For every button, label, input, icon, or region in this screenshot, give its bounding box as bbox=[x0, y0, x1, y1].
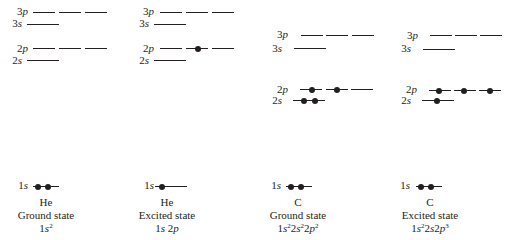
label-3s: 3s bbox=[258, 43, 282, 54]
state-label: Ground state bbox=[0, 209, 101, 222]
electron-dot bbox=[35, 184, 41, 190]
element-symbol: C bbox=[375, 196, 485, 209]
element-symbol: C bbox=[243, 196, 353, 209]
electron-dot bbox=[487, 88, 493, 94]
label-2p: 2p bbox=[130, 43, 154, 54]
orbital-3p-3 bbox=[480, 35, 502, 36]
electron-dot bbox=[298, 184, 304, 190]
orbital-3s bbox=[423, 49, 455, 50]
orbital-2s bbox=[293, 100, 325, 101]
orbital-2s bbox=[154, 60, 186, 61]
panel-he-ground: 3p 3s 2p 2s 1s He Ground state 1s2 bbox=[0, 0, 130, 240]
label-1s: 1s bbox=[386, 180, 410, 191]
element-symbol: He bbox=[0, 196, 101, 209]
orbital-3p-2 bbox=[455, 35, 477, 36]
orbital-3s bbox=[27, 24, 59, 25]
orbital-2p-3 bbox=[85, 48, 107, 49]
orbital-3p-3 bbox=[212, 12, 234, 13]
label-3p: 3p bbox=[4, 6, 28, 17]
electron-configuration: 1s22s2p3 bbox=[375, 222, 485, 235]
caption-c-excited: C Excited state 1s22s2p3 bbox=[375, 196, 485, 235]
electron-dot bbox=[434, 98, 440, 104]
electron-dot bbox=[334, 87, 340, 93]
electron-dot bbox=[45, 184, 51, 190]
orbital-2p-3 bbox=[351, 89, 373, 90]
electron-dot bbox=[159, 184, 165, 190]
element-symbol: He bbox=[112, 196, 222, 209]
orbital-2p-1 bbox=[160, 48, 182, 49]
label-1s: 1s bbox=[130, 180, 154, 191]
orbital-3p-1 bbox=[301, 35, 323, 36]
electron-dot bbox=[288, 184, 294, 190]
electron-configuration: 1s 2p bbox=[112, 222, 222, 235]
label-1s: 1s bbox=[4, 180, 28, 191]
orbital-3p-1 bbox=[430, 35, 452, 36]
state-label: Ground state bbox=[243, 209, 353, 222]
orbital-3p-3 bbox=[85, 12, 107, 13]
electron-dot bbox=[312, 98, 318, 104]
orbital-3p-1 bbox=[160, 12, 182, 13]
label-3s: 3s bbox=[125, 18, 149, 29]
electron-dot bbox=[301, 98, 307, 104]
label-3s: 3s bbox=[0, 18, 22, 29]
orbital-2p-2 bbox=[59, 48, 81, 49]
label-2p: 2p bbox=[4, 43, 28, 54]
panel-c-ground: 3p 3s 2p 2s 1s C Ground state 1s22s22p2 bbox=[260, 0, 390, 240]
electron-dot bbox=[461, 88, 467, 94]
orbital-3p-3 bbox=[352, 35, 374, 36]
orbital-3p-1 bbox=[33, 12, 55, 13]
electron-dot bbox=[418, 184, 424, 190]
caption-c-ground: C Ground state 1s22s22p2 bbox=[243, 196, 353, 235]
orbital-3p-2 bbox=[59, 12, 81, 13]
panel-c-excited: 3p 3s 2p 2s 1s C Excited state 1s22s2p3 bbox=[390, 0, 515, 240]
orbital-3p-2 bbox=[186, 12, 208, 13]
electron-dot bbox=[428, 184, 434, 190]
label-3p: 3p bbox=[394, 30, 418, 41]
orbital-2s bbox=[27, 60, 59, 61]
orbital-3s bbox=[294, 48, 326, 49]
label-2s: 2s bbox=[387, 95, 411, 106]
label-2s: 2s bbox=[258, 95, 282, 106]
state-label: Excited state bbox=[375, 209, 485, 222]
electron-dot bbox=[195, 46, 201, 52]
electron-configuration: 1s22s22p2 bbox=[243, 222, 353, 235]
state-label: Excited state bbox=[112, 209, 222, 222]
electron-configuration: 1s2 bbox=[0, 222, 101, 235]
label-1s: 1s bbox=[257, 180, 281, 191]
orbital-3p-2 bbox=[326, 35, 348, 36]
electron-dot bbox=[309, 87, 315, 93]
label-2s: 2s bbox=[0, 55, 22, 66]
electron-dot bbox=[436, 88, 442, 94]
orbital-2p-3 bbox=[212, 48, 234, 49]
orbital-3s bbox=[154, 24, 186, 25]
label-2s: 2s bbox=[125, 55, 149, 66]
caption-he-ground: He Ground state 1s2 bbox=[0, 196, 101, 235]
label-3p: 3p bbox=[264, 29, 288, 40]
label-3s: 3s bbox=[387, 43, 411, 54]
label-3p: 3p bbox=[130, 6, 154, 17]
orbital-2p-1 bbox=[33, 48, 55, 49]
panel-he-excited: 3p 3s 2p 2s 1s He Excited state 1s 2p bbox=[130, 0, 260, 240]
caption-he-excited: He Excited state 1s 2p bbox=[112, 196, 222, 235]
